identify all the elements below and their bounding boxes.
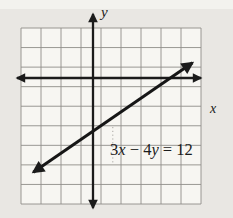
paper-top-band: [0, 0, 233, 9]
equation-equals-value: = 12: [159, 140, 193, 159]
graph-figure: y x 3x − 4y = 12: [0, 0, 233, 218]
graph-svg: y x 3x − 4y = 12: [0, 0, 233, 218]
y-axis-label: y: [99, 4, 108, 20]
x-axis-label: x: [209, 101, 217, 116]
equation-minus-coef: − 4: [126, 140, 152, 159]
equation-coef-1: 3: [110, 140, 118, 159]
grid-background: [21, 28, 201, 204]
equation-label: 3x − 4y = 12: [110, 140, 193, 159]
